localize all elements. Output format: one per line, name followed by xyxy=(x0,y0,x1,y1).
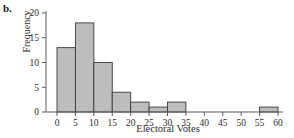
histogram-bar xyxy=(112,92,130,112)
x-tick-label: 25 xyxy=(144,118,154,128)
histogram-bar xyxy=(75,23,93,112)
x-tick-label: 60 xyxy=(273,118,283,128)
y-tick-label: 5 xyxy=(34,83,39,93)
histogram-bar xyxy=(168,102,186,112)
x-tick-label: 50 xyxy=(236,118,246,128)
x-tick-group: 051015202530354045505560 xyxy=(55,112,283,128)
x-tick-label: 10 xyxy=(89,118,99,128)
y-tick-label: 20 xyxy=(30,8,40,18)
histogram-bar xyxy=(94,63,112,113)
histogram-bar xyxy=(260,107,278,112)
histogram-figure: b. Frequency Electoral Votes 05101520 05… xyxy=(0,0,294,138)
x-tick-label: 30 xyxy=(163,118,173,128)
x-tick-label: 55 xyxy=(255,118,265,128)
x-tick-label: 15 xyxy=(108,118,118,128)
x-tick-label: 35 xyxy=(181,118,191,128)
histogram-plot-area: 05101520 051015202530354045505560 xyxy=(0,0,294,138)
bars-group xyxy=(57,23,278,112)
x-tick-label: 40 xyxy=(200,118,210,128)
y-tick-label: 0 xyxy=(34,107,39,117)
x-tick-label: 20 xyxy=(126,118,136,128)
histogram-bar xyxy=(149,107,167,112)
histogram-bar xyxy=(131,102,149,112)
x-tick-label: 5 xyxy=(73,118,78,128)
y-tick-label: 15 xyxy=(30,33,40,43)
y-tick-group: 05101520 xyxy=(30,8,47,117)
histogram-bar xyxy=(57,48,75,112)
x-tick-label: 45 xyxy=(218,118,228,128)
x-tick-label: 0 xyxy=(55,118,60,128)
y-tick-label: 10 xyxy=(30,58,40,68)
